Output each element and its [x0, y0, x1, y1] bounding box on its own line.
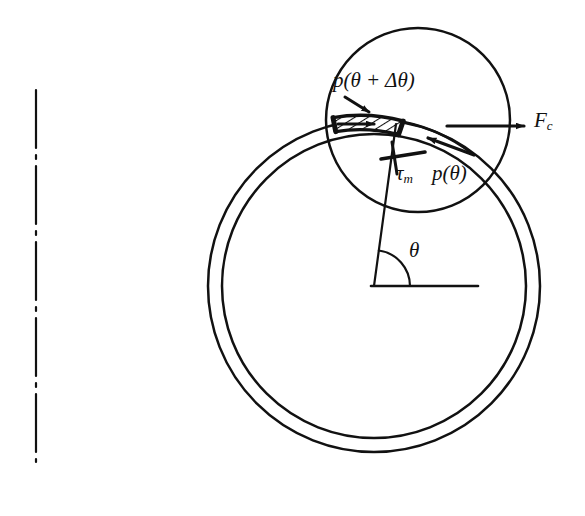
pressure-leading-arrow-upper — [345, 97, 369, 112]
element-face-leading — [333, 118, 336, 132]
figure-root: p(θ + Δθ) τm p(θ) Fc θ — [0, 0, 585, 516]
shear-stress-tick-long — [381, 152, 425, 159]
belt-pulley-diagram — [0, 0, 585, 516]
angle-arc — [379, 251, 410, 287]
